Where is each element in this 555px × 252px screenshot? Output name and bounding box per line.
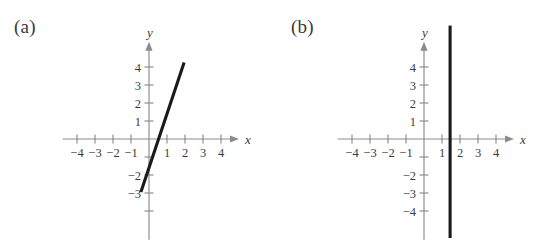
y-tick-label: 1: [410, 115, 416, 129]
y-tick-label: 4: [135, 61, 142, 75]
y-tick-label: 4: [410, 61, 417, 75]
y-axis-arrow-icon: [145, 42, 152, 51]
x-axis-label: x: [519, 132, 526, 147]
x-tick-label: 3: [475, 146, 481, 160]
x-tick-label: 1: [164, 146, 170, 160]
graph-b: −4−3−2−112344321−2−3−4xy: [277, 0, 555, 252]
y-tick-label: −3: [403, 187, 416, 201]
y-tick-label: 1: [135, 115, 141, 129]
y-axis-label: y: [145, 25, 153, 40]
graph-line: [141, 63, 184, 193]
x-tick-label: 2: [457, 146, 463, 160]
x-tick-label: −2: [106, 146, 119, 160]
y-axis-arrow-icon: [420, 42, 427, 51]
y-axis-label: y: [420, 25, 428, 40]
plot-panel-b: (b) −4−3−2−112344321−2−3−4xy: [277, 0, 555, 252]
y-tick-label: 2: [135, 97, 141, 111]
y-tick-label: −2: [128, 169, 141, 183]
plot-panel-a: (a) −4−3−2−112344321−2−3xy: [0, 0, 278, 252]
x-axis-arrow-icon: [230, 135, 239, 142]
y-tick-label: 3: [410, 79, 416, 93]
y-tick-label: 2: [410, 97, 416, 111]
x-tick-label: 4: [493, 146, 500, 160]
x-tick-label: −3: [88, 146, 101, 160]
y-tick-label: −2: [403, 169, 416, 183]
x-tick-label: −4: [70, 146, 84, 160]
y-tick-label: −3: [128, 187, 141, 201]
graph-a: −4−3−2−112344321−2−3xy: [0, 0, 278, 252]
x-tick-label: −3: [363, 146, 376, 160]
x-tick-label: −1: [399, 146, 412, 160]
y-tick-label: −4: [403, 205, 417, 219]
x-tick-label: 2: [182, 146, 188, 160]
x-axis-label: x: [244, 132, 251, 147]
x-tick-label: 3: [200, 146, 206, 160]
x-tick-label: 1: [439, 146, 445, 160]
y-tick-label: 3: [135, 79, 141, 93]
x-tick-label: −2: [381, 146, 394, 160]
x-tick-label: −4: [345, 146, 359, 160]
x-axis-arrow-icon: [505, 135, 514, 142]
x-tick-label: −1: [124, 146, 137, 160]
x-tick-label: 4: [218, 146, 225, 160]
